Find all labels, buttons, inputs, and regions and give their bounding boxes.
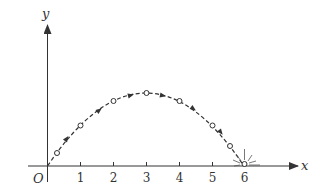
x-tick-labels: 1 2 3 4 5 6 — [77, 171, 249, 185]
point-marker — [242, 162, 247, 167]
trajectory-curve — [48, 93, 245, 166]
svg-text:4: 4 — [176, 171, 184, 185]
direction-arrows — [63, 92, 225, 142]
svg-text:2: 2 — [110, 171, 118, 185]
point-marker — [55, 151, 60, 156]
origin-label: O — [33, 171, 44, 186]
point-marker — [78, 123, 83, 128]
point-marker — [177, 99, 182, 104]
trajectory-points — [55, 91, 248, 167]
point-marker — [210, 123, 215, 128]
svg-text:5: 5 — [209, 171, 217, 185]
x-ticks — [81, 162, 213, 166]
x-axis-label: x — [301, 158, 309, 173]
svg-text:1: 1 — [77, 171, 85, 185]
trajectory-diagram: y x O 1 2 3 4 5 6 — [0, 0, 321, 192]
point-marker — [228, 144, 233, 149]
y-axis-label: y — [41, 6, 50, 21]
point-marker — [111, 99, 116, 104]
point-marker — [144, 91, 149, 96]
svg-text:3: 3 — [143, 171, 151, 185]
svg-text:6: 6 — [241, 171, 249, 185]
